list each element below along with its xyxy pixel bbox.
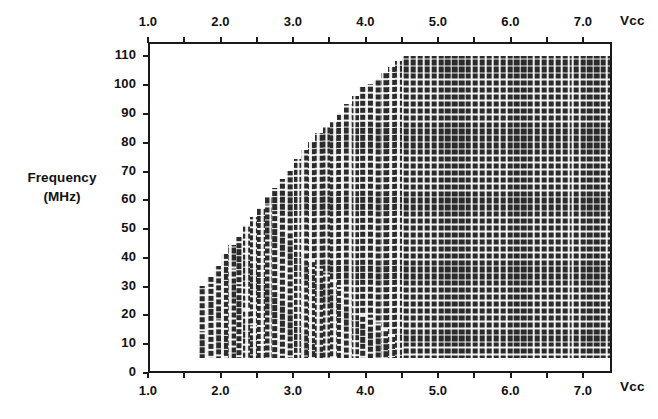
tick-mark [401, 372, 403, 378]
tick-mark [365, 37, 367, 43]
x-tick-label-bottom: 5.0 [416, 383, 460, 398]
x-axis-title-bottom: Vcc [620, 379, 645, 394]
tick-mark [220, 37, 222, 43]
tick-mark [143, 343, 149, 345]
x-tick-label-top: 6.0 [489, 14, 533, 29]
tick-mark [143, 199, 149, 201]
x-tick-label-top: 1.0 [126, 14, 170, 29]
y-tick-label: 60 [96, 191, 136, 206]
tick-mark [328, 372, 330, 378]
region-column [402, 56, 610, 358]
tick-mark [143, 55, 149, 57]
y-tick-label: 110 [96, 47, 136, 62]
x-tick-label-bottom: 6.0 [489, 383, 533, 398]
y-tick-label: 50 [96, 220, 136, 235]
tick-mark [143, 228, 149, 230]
tick-mark [582, 372, 584, 378]
tick-mark [546, 372, 548, 378]
y-tick-label: 10 [96, 335, 136, 350]
tick-mark [143, 84, 149, 86]
tick-mark [546, 37, 548, 43]
tick-mark [473, 372, 475, 378]
tick-mark [437, 37, 439, 43]
y-tick-label: 90 [96, 105, 136, 120]
x-tick-label-top: 2.0 [199, 14, 243, 29]
tick-mark [473, 37, 475, 43]
tick-mark [143, 314, 149, 316]
tick-mark [183, 372, 185, 378]
y-tick-label: 100 [96, 76, 136, 91]
tick-mark [292, 37, 294, 43]
y-tick-label: 30 [96, 278, 136, 293]
y-tick-label: 20 [96, 306, 136, 321]
tick-mark [183, 37, 185, 43]
tick-mark [256, 372, 258, 378]
y-tick-label: 0 [96, 364, 136, 379]
tick-mark [143, 171, 149, 173]
operating-region [150, 44, 610, 371]
x-axis-title-top: Vcc [620, 13, 645, 28]
tick-mark [256, 37, 258, 43]
tick-mark [147, 37, 149, 43]
tick-mark [143, 372, 149, 374]
tick-mark [143, 257, 149, 259]
x-tick-label-bottom: 2.0 [199, 383, 243, 398]
x-tick-label-top: 3.0 [271, 14, 315, 29]
x-tick-label-top: 4.0 [344, 14, 388, 29]
tick-mark [510, 37, 512, 43]
tick-mark [582, 37, 584, 43]
x-tick-label-bottom: 4.0 [344, 383, 388, 398]
x-tick-label-bottom: 3.0 [271, 383, 315, 398]
tick-mark [510, 372, 512, 378]
x-tick-label-top: 7.0 [561, 14, 605, 29]
x-tick-label-bottom: 1.0 [126, 383, 170, 398]
frequency-vs-vcc-chart: Frequency (MHz) Vcc Vcc 1.02.03.04.05.06… [0, 0, 658, 419]
tick-mark [143, 142, 149, 144]
tick-mark [437, 372, 439, 378]
y-tick-label: 40 [96, 249, 136, 264]
tick-mark [143, 286, 149, 288]
tick-mark [220, 372, 222, 378]
tick-mark [365, 372, 367, 378]
y-tick-label: 70 [96, 163, 136, 178]
x-tick-label-top: 5.0 [416, 14, 460, 29]
tick-mark [401, 37, 403, 43]
tick-mark [292, 372, 294, 378]
y-tick-label: 80 [96, 134, 136, 149]
x-tick-label-bottom: 7.0 [561, 383, 605, 398]
plot-area [148, 42, 612, 373]
tick-mark [328, 37, 330, 43]
tick-mark [143, 113, 149, 115]
